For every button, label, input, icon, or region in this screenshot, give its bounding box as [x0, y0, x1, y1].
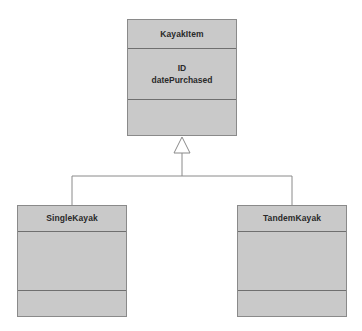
class-name-label: TandemKayak	[263, 213, 321, 224]
uml-class-diagram-canvas: KayakItem ID datePurchased SingleKayak T…	[0, 0, 362, 331]
class-name-compartment: SingleKayak	[18, 206, 126, 231]
class-name-label: KayakItem	[160, 29, 203, 40]
class-operations-compartment	[238, 290, 346, 316]
uml-class-singlekayak[interactable]: SingleKayak	[17, 205, 127, 317]
class-attributes-compartment	[18, 231, 126, 290]
uml-class-kayakitem[interactable]: KayakItem ID datePurchased	[127, 19, 237, 136]
class-operations-compartment	[18, 290, 126, 316]
class-name-compartment: TandemKayak	[238, 206, 346, 231]
generalization-arrowhead	[174, 137, 190, 153]
attribute-item: datePurchased	[152, 74, 213, 86]
class-name-compartment: KayakItem	[128, 20, 236, 48]
uml-class-tandemkayak[interactable]: TandemKayak	[237, 205, 347, 317]
attribute-item: ID	[178, 62, 187, 74]
class-name-label: SingleKayak	[46, 213, 98, 224]
class-attributes-compartment: ID datePurchased	[128, 48, 236, 99]
class-attributes-compartment	[238, 231, 346, 290]
class-operations-compartment	[128, 99, 236, 135]
